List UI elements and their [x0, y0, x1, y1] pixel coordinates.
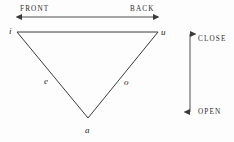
axis-label-back: BACK	[130, 6, 155, 13]
vowel-label-u: u	[161, 28, 166, 37]
diagram-canvas	[0, 0, 234, 142]
axis-label-close: CLOSE	[198, 36, 227, 43]
vowel-label-e: e	[44, 77, 48, 86]
vowel-label-i: i	[9, 27, 12, 36]
axis-label-front: FRONT	[20, 6, 49, 13]
vowel-label-a: a	[85, 126, 90, 135]
vowel-label-o: o	[124, 78, 129, 87]
vowel-triangle-outline	[17, 32, 158, 118]
vowel-triangle-figure: FRONT BACK CLOSE OPEN i u a e o	[0, 0, 234, 142]
axis-label-open: OPEN	[198, 109, 221, 116]
